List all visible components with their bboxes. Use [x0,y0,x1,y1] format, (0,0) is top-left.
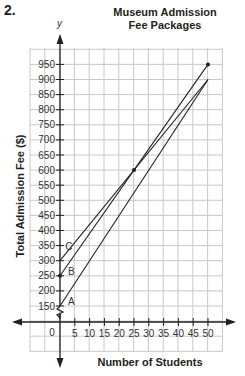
y-axis-arrow-up-icon [57,34,64,44]
y-tick-label: 350 [38,240,55,251]
y-axis-symbol: y [56,18,63,29]
x-axis-arrow-right-icon [226,319,236,326]
y-tick-label: 950 [38,59,55,70]
series-label-c: C [65,241,72,252]
y-tick-label: 150 [38,301,55,312]
y-tick-label: 250 [38,270,55,281]
y-tick-label: 650 [38,150,55,161]
y-tick-label: 550 [38,180,55,191]
line-chart: y150200250300350400450500550600650700750… [0,0,245,376]
series-label-b: B [68,266,75,277]
x-tick-label: 5 [72,328,78,339]
y-axis-label: Total Admission Fee ($) [14,116,26,276]
y-tick-label: 400 [38,225,55,236]
y-tick-label: 750 [38,119,55,130]
data-point [206,62,210,66]
series-label-a: A [68,296,75,307]
y-axis-arrow-down-icon [57,358,64,368]
y-tick-label: 800 [38,104,55,115]
y-tick-label: 450 [38,210,55,221]
x-tick-label: 30 [143,328,155,339]
y-tick-label: 850 [38,89,55,100]
y-tick-label: 700 [38,134,55,145]
y-tick-label: 500 [38,195,55,206]
y-tick-label: 200 [38,285,55,296]
x-tick-label: 50 [202,328,214,339]
x-tick-label: 15 [99,328,111,339]
x-tick-label: 35 [158,328,170,339]
x-axis-label: Number of Students [80,356,220,368]
x-tick-label: 45 [188,328,200,339]
y-tick-label: 600 [38,165,55,176]
data-point [58,274,62,278]
x-axis-arrow-left-icon [12,319,22,326]
x-tick-label: 25 [128,328,140,339]
x-tick-label: 40 [173,328,185,339]
x-tick-label: 20 [114,328,126,339]
x-tick-label: 10 [84,328,96,339]
y-tick-label: 300 [38,255,55,266]
y-tick-label: 900 [38,74,55,85]
data-point [132,168,136,172]
origin-label: 0 [49,327,55,338]
